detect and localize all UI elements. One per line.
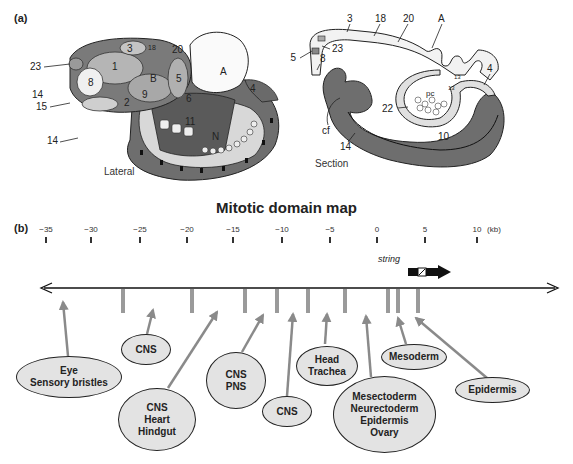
domain-line: Mesoderm bbox=[389, 351, 439, 363]
domain-line: Mesectoderm bbox=[352, 391, 416, 403]
domain-line: CNS bbox=[146, 402, 167, 414]
domain-line: Ovary bbox=[370, 427, 398, 439]
domain-cns-pns: CNS PNS bbox=[206, 352, 266, 409]
domain-line: Head bbox=[315, 354, 339, 366]
domain-line: Epidermis bbox=[360, 415, 408, 427]
domain-line: Eye bbox=[60, 365, 78, 377]
domain-mesoderm: Mesoderm bbox=[381, 344, 447, 370]
domain-line: PNS bbox=[226, 381, 247, 393]
domain-mesectoderm-neurectoderm-epidermis-ovary: Mesectoderm Neurectoderm Epidermis Ovary bbox=[333, 376, 436, 453]
domain-cns-2: CNS bbox=[262, 396, 312, 427]
domain-epidermis: Epidermis bbox=[455, 377, 530, 403]
domain-eye-sensory-bristles: Eye Sensory bristles bbox=[16, 356, 122, 398]
domain-cns-1: CNS bbox=[121, 334, 171, 365]
domain-line: Heart bbox=[144, 414, 170, 426]
domain-line: CNS bbox=[135, 344, 156, 356]
domain-line: Epidermis bbox=[468, 384, 516, 396]
domain-line: Hindgut bbox=[138, 426, 176, 438]
domain-head-trachea: Head Trachea bbox=[296, 346, 358, 386]
domain-line: CNS bbox=[276, 406, 297, 418]
domain-line: Sensory bristles bbox=[30, 377, 108, 389]
domain-line: Trachea bbox=[308, 366, 346, 378]
domain-cns-heart-hindgut: CNS Heart Hindgut bbox=[118, 388, 196, 451]
regulatory-element-bars bbox=[121, 289, 420, 313]
domain-line: CNS bbox=[225, 369, 246, 381]
string-gene-arrow-icon bbox=[408, 265, 451, 279]
domain-line: Neurectoderm bbox=[351, 403, 419, 415]
